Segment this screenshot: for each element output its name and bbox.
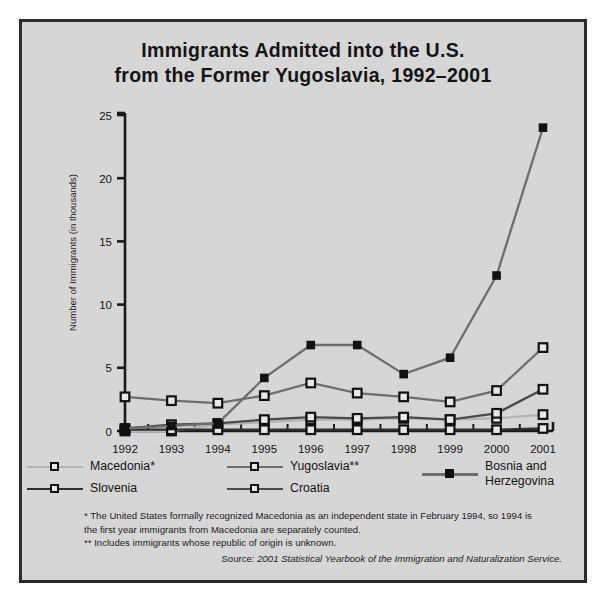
data-point [214,399,223,408]
data-point [260,391,269,400]
y-axis-label: Number of Immigrants (in thousands) [67,163,78,343]
data-point [492,386,501,395]
data-point [167,422,176,431]
data-point [446,425,455,434]
legend-label: Croatia [290,481,330,496]
y-tick-label: 15 [99,236,112,248]
data-point [260,415,269,424]
data-point [121,393,130,402]
x-tick-label: 1995 [252,443,278,455]
data-point [446,398,455,407]
data-point [539,343,548,352]
legend-marker-icon [50,484,59,493]
series-line [125,429,543,430]
data-point [539,410,548,419]
data-point [121,424,130,433]
y-tick-label: 5 [106,362,112,374]
series-yugoslavia [121,343,548,407]
legend-swatch [422,467,478,481]
x-tick-label: 1996 [298,443,324,455]
data-point [492,409,501,418]
legend-item-slovenia[interactable]: Slovenia [27,481,137,496]
x-tick-label: 1998 [391,443,417,455]
data-point [492,425,501,434]
x-tick-label: 1992 [112,443,138,455]
data-point [399,413,408,422]
footnotes: * The United States formally recognized … [84,509,544,550]
data-point [353,425,362,434]
legend-marker-icon [445,469,454,478]
y-tick-label: 20 [99,173,112,185]
x-tick-label: 1997 [344,443,370,455]
source-prefix: Source: [221,553,257,564]
legend-swatch [227,460,283,474]
data-point [260,425,269,434]
chart-figure: Immigrants Admitted into the U.S. from t… [19,19,587,583]
data-point [260,374,269,383]
data-point [167,396,176,405]
data-point [539,385,548,394]
plot-area: Number of Immigrants (in thousands) 0510… [22,22,584,580]
data-point [539,123,548,132]
data-point [399,393,408,402]
x-tick-label: 1994 [205,443,231,455]
legend-item-yugoslavia[interactable]: Yugoslavia** [227,459,359,474]
data-point [539,424,548,433]
data-point [353,389,362,398]
legend-marker-icon [250,462,259,471]
footnote-1: * The United States formally recognized … [84,509,544,536]
series-bosnia-and-herzegovina [121,123,548,432]
legend-label: Bosnia and Herzegovina [485,459,554,489]
series-line [125,128,543,429]
data-point [306,413,315,422]
legend-item-croatia[interactable]: Croatia [227,481,330,496]
legend-label: Slovenia [90,481,137,496]
data-point [492,271,501,280]
data-point [306,425,315,434]
data-point [306,341,315,350]
legend-swatch [227,482,283,496]
legend-label: Yugoslavia** [290,459,359,474]
legend-marker-icon [50,462,59,471]
legend-swatch [27,460,83,474]
legend-label: Macedonia* [90,459,155,474]
x-tick-label: 2000 [484,443,510,455]
legend-marker-icon [250,484,259,493]
data-point [353,414,362,423]
legend-item-bosnia-and-herzegovina[interactable]: Bosnia and Herzegovina [422,459,554,489]
source-text: 2001 Statistical Yearbook of the Immigra… [257,553,562,564]
y-tick-label: 0 [106,426,112,438]
data-point [446,415,455,424]
line-chart-svg: 0510152025199219931994199519961997199819… [22,22,584,462]
source-line: Source: 2001 Statistical Yearbook of the… [22,553,562,564]
legend-item-macedonia[interactable]: Macedonia* [27,459,155,474]
data-point [399,370,408,379]
x-tick-label: 1999 [437,443,463,455]
series-line [125,348,543,404]
data-point [214,419,223,428]
data-point [399,425,408,434]
legend-swatch [27,482,83,496]
data-point [306,379,315,388]
data-point [446,353,455,362]
x-tick-label: 1993 [159,443,185,455]
y-tick-label: 10 [99,299,112,311]
x-tick-label: 2001 [530,443,556,455]
y-tick-label: 25 [99,110,112,122]
footnote-2: ** Includes immigrants whose republic of… [84,536,544,550]
data-point [353,341,362,350]
